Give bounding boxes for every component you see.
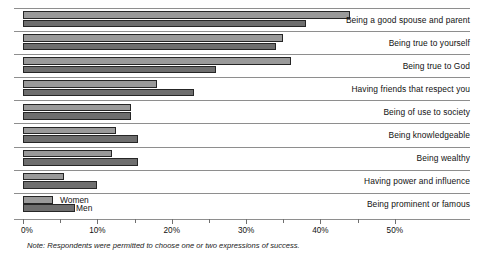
bar-chart: Being a good spouse and parentBeing true…: [0, 0, 482, 261]
legend-label-men: Men: [76, 203, 92, 213]
axis-tick: [209, 219, 210, 223]
x-axis-labels: 0%10%20%30%40%50%: [0, 226, 482, 238]
bar-group: [23, 150, 423, 167]
axis-tick: [135, 219, 136, 223]
chart-row: Having friends that respect you: [0, 77, 482, 100]
category-label: Being wealthy: [417, 153, 470, 163]
row-separator: [14, 193, 470, 194]
chart-row: Being a good spouse and parent: [0, 8, 482, 31]
row-separator: [14, 170, 470, 171]
bar-women: [23, 80, 157, 88]
bar-women: [23, 104, 131, 112]
category-label: Having friends that respect you: [351, 84, 470, 94]
bar-women: [23, 127, 116, 135]
axis-tick: [246, 219, 247, 224]
row-separator: [14, 54, 470, 55]
category-label: Being a good spouse and parent: [346, 15, 470, 25]
bar-men: [23, 135, 138, 143]
axis-tick: [283, 219, 284, 223]
row-separator: [14, 31, 470, 32]
x-tick-label: 50%: [387, 226, 403, 235]
row-separator: [14, 147, 470, 148]
axis-tick: [97, 219, 98, 224]
row-separator: [14, 77, 470, 78]
row-separator: [14, 100, 470, 101]
x-axis-ticks: [0, 219, 482, 225]
category-label: Being prominent or famous: [367, 199, 470, 209]
x-tick-label: 0%: [21, 226, 33, 235]
chart-row: Being of use to society: [0, 100, 482, 123]
category-label: Being true to yourself: [389, 38, 470, 48]
bar-men: [23, 66, 216, 74]
bar-group: [23, 34, 423, 51]
bar-women: [23, 11, 350, 19]
bar-women: [23, 34, 283, 42]
axis-tick: [358, 219, 359, 223]
bar-group: [23, 57, 423, 74]
x-tick-label: 20%: [164, 226, 180, 235]
row-separator: [14, 8, 470, 9]
axis-tick: [60, 219, 61, 223]
bar-men: [23, 112, 131, 120]
axis-tick: [395, 219, 396, 224]
bar-men: [23, 43, 276, 51]
category-label: Being of use to society: [383, 107, 470, 117]
bar-group: [23, 127, 423, 144]
x-tick-label: 40%: [312, 226, 328, 235]
bar-men: [23, 181, 97, 189]
axis-tick: [320, 219, 321, 224]
row-separator: [14, 123, 470, 124]
chart-row: Being true to God: [0, 54, 482, 77]
bar-group: [23, 173, 423, 190]
bar-women: [23, 173, 64, 181]
bar-group: [23, 104, 423, 121]
chart-note: Note: Respondents were permitted to choo…: [27, 241, 300, 250]
chart-row: Being true to yourself: [0, 31, 482, 54]
category-label: Being true to God: [403, 61, 470, 71]
chart-row: Being wealthy: [0, 147, 482, 170]
axis-tick: [172, 219, 173, 224]
bar-men: [23, 89, 194, 97]
axis-tick: [23, 219, 24, 224]
bar-women: [23, 150, 112, 158]
chart-row: Being knowledgeable: [0, 123, 482, 146]
category-label: Being knowledgeable: [388, 130, 470, 140]
x-tick-label: 10%: [89, 226, 105, 235]
bar-men: [23, 204, 75, 212]
plot-area: Being a good spouse and parentBeing true…: [0, 8, 482, 219]
bar-women: [23, 196, 53, 204]
bar-men: [23, 20, 306, 28]
chart-row: Having power and influence: [0, 170, 482, 193]
chart-row: Being prominent or famousWomenMen: [0, 193, 482, 216]
bar-men: [23, 158, 138, 166]
category-label: Having power and influence: [364, 176, 470, 186]
bar-women: [23, 57, 291, 65]
x-tick-label: 30%: [238, 226, 254, 235]
